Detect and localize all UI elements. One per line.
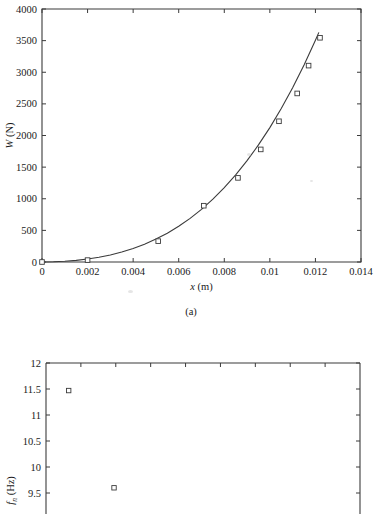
data-point-marker xyxy=(318,35,323,40)
data-point-marker xyxy=(112,486,116,490)
y-tick-label: 500 xyxy=(21,225,37,236)
chart-a-svg: 0500100015002000250030003500400000.0020.… xyxy=(0,0,382,300)
x-tick-label: 0.006 xyxy=(167,266,191,277)
x-tick-label: 0.004 xyxy=(121,266,145,277)
data-markers xyxy=(40,35,323,264)
y-tick-label: 10.5 xyxy=(23,436,41,447)
y-tick-label: 3000 xyxy=(16,67,37,78)
data-point-marker xyxy=(306,63,311,68)
x-tick-label: 0.002 xyxy=(76,266,100,277)
data-markers xyxy=(66,388,116,490)
scan-speck xyxy=(247,153,251,156)
y-tick-label: 10 xyxy=(31,462,42,473)
x-tick-label: 0.01 xyxy=(261,266,279,277)
y-tick-label: 9.5 xyxy=(28,488,41,499)
scan-speck xyxy=(310,180,313,182)
y-tick-label: 2000 xyxy=(16,130,37,141)
data-point-marker xyxy=(277,119,282,124)
x-axis-title: x (m) xyxy=(189,281,213,293)
chart-b-svg: 9.51010.51111.512fn (Hz) xyxy=(0,340,382,514)
subfigure-caption-a: (a) xyxy=(0,306,382,317)
data-point-marker xyxy=(201,203,206,208)
y-tick-label: 11.5 xyxy=(23,384,41,395)
axes-frame xyxy=(42,9,361,262)
data-point-marker xyxy=(258,147,263,152)
x-tick-label: 0.014 xyxy=(349,266,373,277)
x-tick-label: 0 xyxy=(39,266,44,277)
y-axis-title: fn (Hz) xyxy=(5,476,19,505)
x-tick-label: 0.012 xyxy=(304,266,328,277)
y-tick-label: 1500 xyxy=(16,162,37,173)
data-point-marker xyxy=(295,91,300,96)
chart-panel-a: 0500100015002000250030003500400000.0020.… xyxy=(0,0,382,300)
data-point-marker xyxy=(156,239,161,244)
y-tick-label: 1000 xyxy=(16,193,37,204)
y-tick-label: 4000 xyxy=(16,4,37,15)
fitted-curve xyxy=(42,32,319,262)
y-tick-label: 2500 xyxy=(16,98,37,109)
chart-panel-b: 9.51010.51111.512fn (Hz) xyxy=(0,340,382,514)
y-tick-label: 12 xyxy=(31,358,42,369)
data-point-marker xyxy=(85,258,90,263)
data-point-marker xyxy=(236,176,241,181)
y-tick-label: 11 xyxy=(31,410,41,421)
figure-container: 0500100015002000250030003500400000.0020.… xyxy=(0,0,382,514)
y-tick-label: 0 xyxy=(32,257,37,268)
data-point-marker xyxy=(40,260,45,265)
y-tick-label: 3500 xyxy=(16,35,37,46)
x-tick-label: 0.008 xyxy=(212,266,236,277)
scan-speck xyxy=(128,290,133,293)
data-point-marker xyxy=(66,388,70,392)
y-axis-title: W (N) xyxy=(4,122,16,148)
